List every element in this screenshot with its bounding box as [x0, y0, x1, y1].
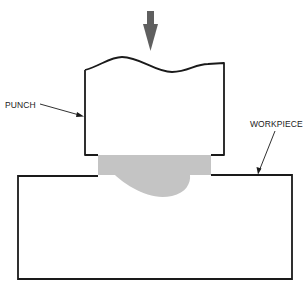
deformed-zone: [98, 155, 211, 197]
diagram-svg: PUNCH WORKPIECE: [0, 0, 308, 291]
workpiece-leader-arrow-icon: [257, 131, 276, 175]
diagram-canvas: PUNCH WORKPIECE: [0, 0, 308, 291]
punch-label: PUNCH: [5, 100, 36, 110]
force-arrow-icon: [143, 11, 158, 51]
punch-leader-arrow-icon: [40, 104, 84, 117]
punch-outline: [85, 57, 224, 155]
workpiece-label: WORKPIECE: [250, 119, 303, 129]
